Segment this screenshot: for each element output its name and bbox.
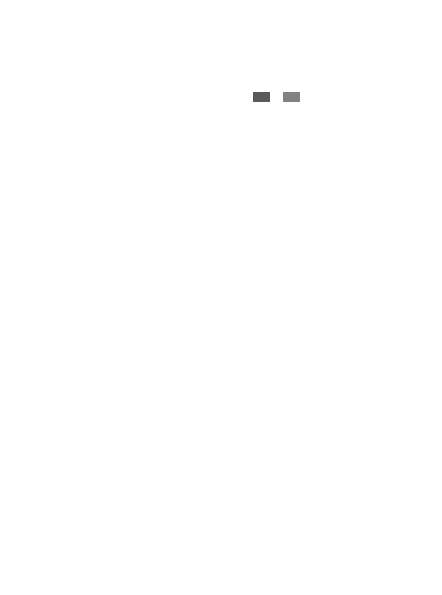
legend-entry-men <box>253 92 275 102</box>
chart-panel-past-12-months <box>0 22 442 227</box>
y-axis-category-labels-top <box>0 22 100 227</box>
two-panel-bar-chart <box>0 0 442 595</box>
bar-series-group-bottom <box>106 258 420 533</box>
bar-series-group-top <box>106 22 420 227</box>
legend-swatch-men-icon <box>253 92 270 102</box>
chart-panel-since-age-18 <box>0 258 442 533</box>
legend <box>253 92 305 102</box>
legend-entry-women <box>283 92 305 102</box>
x-axis <box>106 533 420 573</box>
legend-swatch-women-icon <box>283 92 300 102</box>
y-axis-category-labels-bottom <box>0 258 100 533</box>
plot-area-bottom <box>106 258 420 533</box>
plot-area-top <box>106 22 420 227</box>
